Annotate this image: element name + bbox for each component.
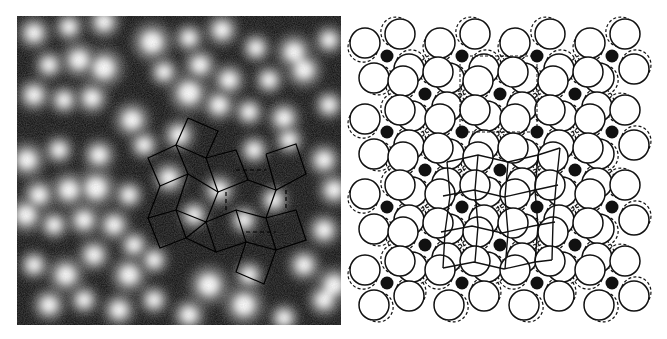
filled-atom-dot: [606, 201, 619, 214]
open-atom-circle: [538, 142, 568, 172]
image-noise: [17, 16, 341, 325]
open-atom-circle: [610, 246, 640, 276]
microscopy-image: [0, 0, 345, 339]
filled-atom-dot: [456, 277, 469, 290]
open-atom-circle: [619, 205, 649, 235]
open-atom-circle: [575, 179, 605, 209]
open-atom-circle: [385, 19, 415, 49]
open-atom-circle: [350, 179, 380, 209]
filled-atom-dot: [569, 239, 582, 252]
open-atom-circle: [575, 28, 605, 58]
open-atom-circle: [425, 255, 455, 285]
open-atom-circle: [500, 28, 530, 58]
open-atom-circle: [425, 104, 455, 134]
filled-atom-dot: [606, 277, 619, 290]
filled-atom-dot: [419, 239, 432, 252]
filled-atom-dot: [606, 50, 619, 63]
filled-atom-dot: [381, 126, 394, 139]
open-atom-circle: [388, 142, 418, 172]
microscopy-image-panel: [0, 0, 345, 339]
filled-atom-dot: [531, 277, 544, 290]
open-atom-circle: [610, 19, 640, 49]
open-atom-circle: [423, 208, 453, 238]
open-atom-circle: [535, 95, 565, 125]
open-atom-circle: [385, 170, 415, 200]
filled-atom-dot: [419, 164, 432, 177]
open-atom-circle: [538, 66, 568, 96]
open-atom-circle: [500, 104, 530, 134]
open-atom-circle: [509, 290, 539, 320]
open-atom-circle: [500, 255, 530, 285]
filled-atom-dot: [381, 201, 394, 214]
open-atom-circle: [350, 28, 380, 58]
open-atom-circle: [350, 255, 380, 285]
open-atom-circle: [498, 57, 528, 87]
open-atom-circle: [434, 290, 464, 320]
open-atom-circle: [423, 133, 453, 163]
open-atom-circle: [350, 104, 380, 134]
filled-atom-dot: [381, 50, 394, 63]
open-atom-circle: [573, 133, 603, 163]
open-atom-circle: [619, 281, 649, 311]
filled-atom-dot: [419, 88, 432, 101]
open-atom-circle: [425, 28, 455, 58]
open-atom-circle: [575, 104, 605, 134]
filled-atom-dot: [569, 88, 582, 101]
open-atom-circle: [394, 281, 424, 311]
open-atom-circle: [460, 95, 490, 125]
filled-atom-dot: [456, 201, 469, 214]
filled-atom-dot: [381, 277, 394, 290]
atomic-model: [340, 0, 667, 339]
open-atom-circle: [359, 214, 389, 244]
open-atom-circle: [584, 290, 614, 320]
filled-atom-dot: [494, 164, 507, 177]
open-atom-circle: [385, 95, 415, 125]
open-atom-circle: [359, 63, 389, 93]
open-atom-circle: [388, 66, 418, 96]
open-atom-circle: [535, 19, 565, 49]
open-atom-circle: [573, 208, 603, 238]
open-atom-circle: [359, 139, 389, 169]
atomic-model-panel: [340, 0, 667, 339]
open-atom-circle: [575, 255, 605, 285]
open-atom-circle: [619, 130, 649, 160]
open-atom-circle: [610, 95, 640, 125]
open-atom-circle: [423, 57, 453, 87]
filled-atom-dot: [494, 88, 507, 101]
open-atom-circle: [359, 290, 389, 320]
open-atom-circle: [460, 19, 490, 49]
filled-atom-dot: [494, 239, 507, 252]
open-atom-circle: [573, 57, 603, 87]
filled-atom-dot: [569, 164, 582, 177]
filled-atom-dot: [606, 126, 619, 139]
open-atom-circle: [619, 54, 649, 84]
open-atom-circle: [469, 281, 499, 311]
open-atom-circle: [385, 246, 415, 276]
open-atom-circle: [463, 66, 493, 96]
open-atom-circle: [610, 170, 640, 200]
open-atom-circle: [388, 217, 418, 247]
open-atom-circle: [544, 281, 574, 311]
open-atom-circle: [535, 170, 565, 200]
